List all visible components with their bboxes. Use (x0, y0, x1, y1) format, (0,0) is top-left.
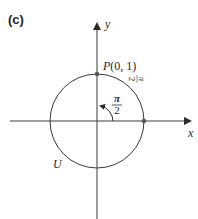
angle-arc (101, 106, 113, 121)
svg-text:2: 2 (127, 77, 137, 82)
y-axis-label: y (104, 17, 111, 31)
point-p-label: P(0, 1) (102, 59, 136, 73)
svg-text:π: π (114, 92, 121, 104)
angle-label: π 2 (112, 92, 122, 116)
unit-circle-diagram: (c) x y P(0, 1) π 2 π 2 U (0, 0, 198, 219)
arc-length-label: π 2 (127, 75, 147, 83)
svg-text:π: π (137, 77, 147, 82)
point-p (95, 72, 99, 76)
x-axis-label: x (187, 126, 194, 140)
point-1-0 (142, 119, 146, 123)
svg-text:2: 2 (114, 104, 120, 116)
panel-label: (c) (8, 12, 24, 27)
circle-label-u: U (53, 157, 63, 171)
